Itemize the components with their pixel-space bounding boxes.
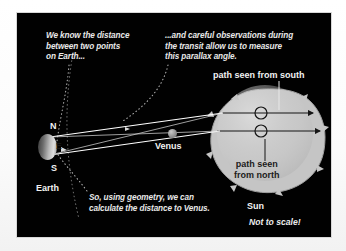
callout-top-left: We know the distance between two points … <box>46 31 166 63</box>
pointer-curve-top-right <box>123 65 168 121</box>
earth-sphere <box>38 134 57 160</box>
label-equator: E <box>56 141 62 152</box>
parallax-angle-marker <box>125 127 130 131</box>
sight-lines <box>50 113 223 155</box>
venus-dot <box>168 129 177 138</box>
callout-top-right: ...and careful observations during the t… <box>165 31 325 63</box>
label-path-seen-from-south: path seen from south <box>213 70 305 81</box>
callout-bottom: So, using geometry, we can calculate the… <box>89 193 249 214</box>
label-north-pole: N <box>50 121 57 132</box>
figure-frame: We know the distance between two points … <box>0 0 346 251</box>
label-venus: Venus <box>155 141 182 152</box>
label-earth: Earth <box>36 183 59 194</box>
label-path-seen-from-north: path seen from north <box>234 159 280 180</box>
label-not-to-scale: Not to scale! <box>249 217 301 227</box>
label-sun: Sun <box>247 201 264 212</box>
label-south-pole: S <box>51 163 57 174</box>
diagram-panel: We know the distance between two points … <box>17 13 331 237</box>
sightline-north-to-south-chord <box>50 113 223 137</box>
diagram-stage: We know the distance between two points … <box>17 13 331 237</box>
